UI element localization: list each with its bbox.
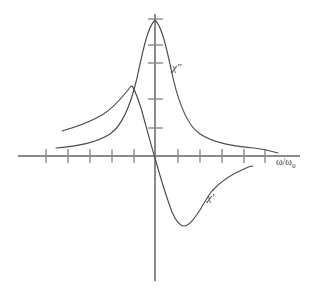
figure-canvas: χ″ χ′ ω/ω0 — [0, 0, 317, 292]
x-axis-label-main: ω/ω — [276, 156, 292, 167]
curve-chi-imaginary — [56, 20, 278, 153]
curve-label-chi-real: χ′ — [207, 191, 214, 203]
x-axis-label: ω/ω0 — [276, 156, 295, 170]
plot-svg — [0, 0, 317, 292]
curve-label-chi-imaginary: χ″ — [172, 61, 181, 73]
x-axis-label-subscript: 0 — [292, 162, 296, 170]
